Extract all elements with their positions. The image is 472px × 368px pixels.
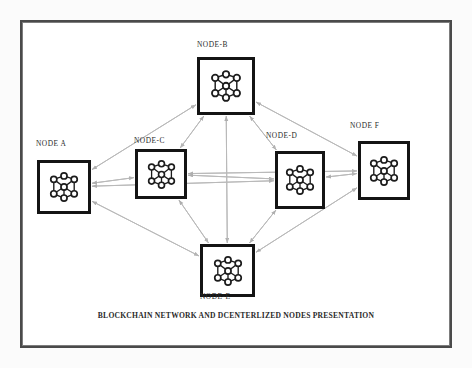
node-box-c[interactable]	[135, 149, 187, 199]
network-nodes-icon	[211, 254, 245, 288]
edge-e-a	[92, 201, 199, 256]
network-nodes-icon	[47, 170, 81, 204]
edge-d-c	[188, 175, 274, 179]
node-box-b[interactable]	[197, 57, 255, 115]
node-label-b: NODE-B	[197, 40, 228, 49]
node-label-f: NODE F	[350, 121, 379, 130]
node-box-d[interactable]	[275, 151, 325, 209]
network-nodes-icon	[283, 163, 317, 197]
edge-f-b	[256, 102, 357, 156]
node-label-a: NODE A	[36, 139, 66, 148]
edge-f-c	[188, 171, 357, 174]
figure-caption: BLOCKCHAIN NETWORK AND DCENTERLIZED NODE…	[0, 311, 472, 320]
node-label-e: NODE-E	[200, 292, 231, 301]
edge-f-d	[326, 174, 357, 178]
node-box-a[interactable]	[37, 160, 91, 214]
network-nodes-icon	[367, 154, 401, 188]
network-nodes-icon	[208, 68, 244, 104]
node-label-c: NODE-C	[134, 136, 165, 145]
figure-canvas: NODE A NODE-B NODE-C NODE-D NODE-E NODE …	[0, 0, 472, 368]
network-nodes-icon	[145, 158, 178, 191]
node-box-e[interactable]	[200, 244, 255, 297]
edge-c-a	[92, 178, 134, 184]
node-label-d: NODE-D	[266, 131, 297, 140]
edge-e-d	[250, 210, 276, 243]
edge-e-c	[179, 200, 209, 243]
edge-c-b	[180, 116, 204, 148]
edge-e-b	[226, 116, 227, 243]
node-box-f[interactable]	[358, 141, 410, 200]
